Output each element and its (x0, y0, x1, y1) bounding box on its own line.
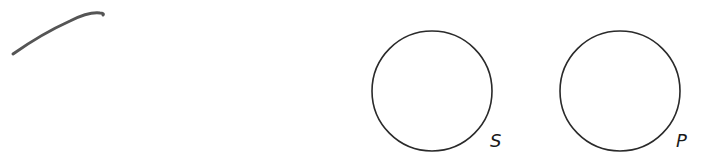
set-s: S (372, 31, 501, 151)
circle-p (560, 31, 680, 151)
circle-s (372, 31, 492, 151)
label-p: P (676, 130, 687, 151)
label-s: S (490, 130, 501, 151)
pencil-stroke-mark (13, 13, 103, 54)
set-p: P (560, 31, 687, 151)
diagram-canvas: S P (0, 0, 703, 165)
